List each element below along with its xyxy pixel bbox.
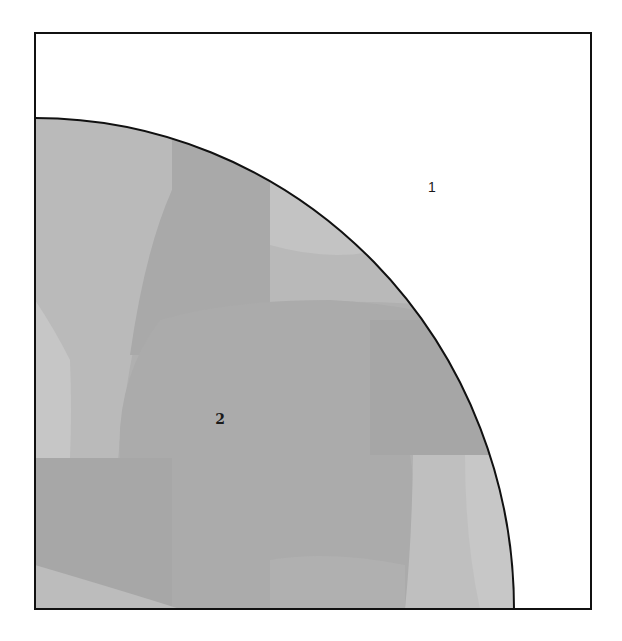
region-1-label: 1 — [428, 180, 436, 194]
patch-bottom-band — [270, 556, 405, 609]
diagram-canvas — [0, 0, 622, 641]
region-2-label: 2 — [215, 412, 225, 426]
